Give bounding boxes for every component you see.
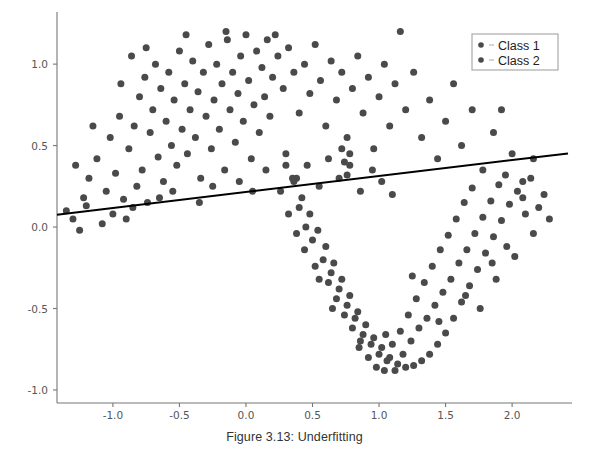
data-point (320, 256, 327, 263)
data-point (477, 305, 484, 312)
data-point (197, 175, 204, 182)
data-point (330, 259, 337, 266)
data-point (250, 101, 257, 108)
data-point (325, 279, 332, 286)
data-point (392, 80, 399, 87)
data-point (471, 230, 478, 237)
data-point (490, 129, 497, 136)
legend[interactable]: Class 1Class 2 (472, 34, 558, 70)
data-point (258, 64, 265, 71)
data-point (322, 243, 329, 250)
x-tick-label: 0.5 (304, 409, 321, 421)
data-point (296, 110, 303, 117)
data-point (213, 61, 220, 68)
data-point (338, 69, 345, 76)
data-point (490, 233, 497, 240)
data-point (413, 295, 420, 302)
data-point (125, 145, 132, 152)
data-point (155, 154, 162, 161)
data-point (447, 276, 454, 283)
data-point (370, 334, 377, 341)
data-point (421, 279, 428, 286)
data-point (245, 77, 252, 84)
data-point (365, 74, 372, 81)
data-point (196, 199, 203, 206)
data-point (381, 367, 388, 374)
data-point (269, 74, 276, 81)
data-point (450, 80, 457, 87)
data-point (495, 181, 502, 188)
data-point (256, 129, 263, 136)
data-point (328, 57, 335, 64)
data-point (369, 167, 376, 174)
data-point (378, 344, 385, 351)
data-point (314, 227, 321, 234)
data-point (261, 93, 268, 100)
data-point (223, 28, 230, 35)
data-point (221, 167, 228, 174)
data-point (253, 48, 260, 55)
data-point (242, 31, 249, 38)
data-point (176, 48, 183, 55)
data-point (409, 272, 416, 279)
data-point (498, 217, 505, 224)
data-point (171, 96, 178, 103)
data-point (426, 351, 433, 358)
data-point (474, 266, 481, 273)
legend-label: Class 1 (498, 39, 540, 53)
data-point (280, 85, 287, 92)
data-point (149, 106, 156, 113)
y-tick-label: 0.5 (31, 140, 48, 152)
figure-caption: Figure 3.13: Underfitting (0, 430, 589, 444)
figure-container: -1.0-0.50.00.51.01.52.0-1.0-0.50.00.51.0… (0, 0, 589, 461)
data-point (519, 178, 526, 185)
data-point (169, 188, 176, 195)
data-point (232, 139, 239, 146)
data-point (293, 230, 300, 237)
data-point (362, 321, 369, 328)
data-point (349, 85, 356, 92)
data-point (117, 80, 124, 87)
data-point (493, 276, 500, 283)
data-point (298, 194, 305, 201)
data-point (123, 215, 130, 222)
data-point (192, 134, 199, 141)
data-point (434, 341, 441, 348)
data-point (344, 134, 351, 141)
data-point (272, 31, 279, 38)
data-point (439, 289, 446, 296)
data-point (418, 357, 425, 364)
data-point (346, 292, 353, 299)
data-point (506, 201, 513, 208)
data-point (264, 36, 271, 43)
data-point (69, 215, 76, 222)
data-point (163, 118, 170, 125)
data-point (203, 113, 210, 120)
data-point (173, 162, 180, 169)
data-point (535, 204, 542, 211)
data-point (338, 276, 345, 283)
data-point (301, 61, 308, 68)
data-point (503, 243, 510, 250)
data-point (285, 211, 292, 218)
data-point (136, 93, 143, 100)
data-point (282, 150, 289, 157)
data-point (341, 158, 348, 165)
data-point (352, 315, 359, 322)
data-point (312, 263, 319, 270)
data-point (397, 328, 404, 335)
data-point (429, 263, 436, 270)
data-point (463, 246, 470, 253)
data-point (479, 214, 486, 221)
data-point (211, 96, 218, 103)
data-point (462, 292, 469, 299)
data-point (306, 90, 313, 97)
data-point (289, 175, 296, 182)
data-point (328, 269, 335, 276)
data-point (434, 155, 441, 162)
y-tick-label: -0.5 (28, 303, 49, 315)
data-point (76, 227, 83, 234)
data-point (410, 69, 417, 76)
data-point (333, 295, 340, 302)
data-point (511, 253, 518, 260)
